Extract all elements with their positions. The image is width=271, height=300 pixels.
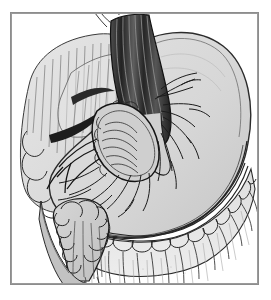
anatomical-illustration [11, 13, 258, 284]
illustration-page: Esophagus Anterior vagus nerve Posterior… [0, 0, 271, 300]
illustration-frame [10, 12, 259, 285]
